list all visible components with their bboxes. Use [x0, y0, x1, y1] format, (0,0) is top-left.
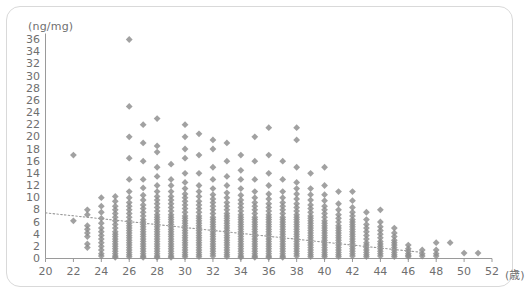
data-point-layer	[70, 36, 481, 261]
